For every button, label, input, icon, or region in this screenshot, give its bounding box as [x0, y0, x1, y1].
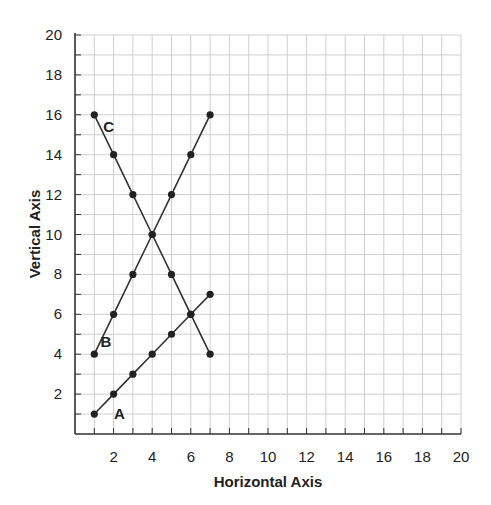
data-point-marker: [129, 371, 136, 378]
data-point-marker: [168, 191, 175, 198]
y-axis-tick-labels: 2468101214161820: [45, 26, 62, 402]
data-point-marker: [129, 191, 136, 198]
data-point-marker: [129, 271, 136, 278]
y-tick-label: 4: [54, 345, 62, 362]
data-point-marker: [187, 311, 194, 318]
data-point-marker: [149, 351, 156, 358]
series-label: C: [103, 118, 114, 135]
data-point-marker: [91, 111, 98, 118]
y-axis-title: Vertical Axis: [26, 190, 43, 279]
x-tick-label: 4: [148, 448, 156, 465]
y-tick-label: 20: [45, 26, 62, 43]
x-tick-label: 16: [375, 448, 392, 465]
y-tick-label: 12: [45, 186, 62, 203]
y-tick-label: 18: [45, 66, 62, 83]
x-tick-label: 20: [453, 448, 470, 465]
x-tick-label: 6: [187, 448, 195, 465]
data-point-marker: [168, 271, 175, 278]
y-tick-label: 8: [54, 265, 62, 282]
data-point-marker: [207, 351, 214, 358]
y-tick-label: 16: [45, 106, 62, 123]
y-tick-label: 6: [54, 305, 62, 322]
data-point-marker: [207, 291, 214, 298]
data-point-marker: [91, 410, 98, 417]
y-tick-label: 2: [54, 385, 62, 402]
data-point-marker: [149, 231, 156, 238]
x-tick-label: 14: [337, 448, 354, 465]
series-label: A: [114, 405, 125, 422]
x-tick-label: 10: [260, 448, 277, 465]
data-point-marker: [207, 111, 214, 118]
data-point-marker: [110, 151, 117, 158]
x-tick-label: 8: [225, 448, 233, 465]
data-point-marker: [110, 391, 117, 398]
x-tick-label: 2: [109, 448, 117, 465]
x-tick-label: 12: [298, 448, 315, 465]
x-axis-tick-labels: 2468101214161820: [109, 448, 469, 465]
y-tick-label: 10: [45, 226, 62, 243]
series-label: B: [100, 333, 111, 350]
data-point-marker: [110, 311, 117, 318]
data-point-marker: [168, 331, 175, 338]
data-point-marker: [91, 351, 98, 358]
y-tick-label: 14: [45, 146, 62, 163]
data-point-marker: [187, 151, 194, 158]
x-axis-title: Horizontal Axis: [214, 473, 323, 490]
x-tick-label: 18: [414, 448, 431, 465]
line-chart: 2468101214161820 2468101214161820 Vertic…: [0, 0, 491, 505]
